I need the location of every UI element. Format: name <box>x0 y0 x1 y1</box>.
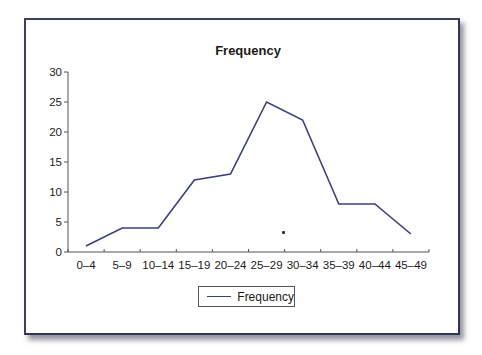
x-tick-label: 0–4 <box>76 259 96 271</box>
x-tick-label: 40–44 <box>359 259 392 271</box>
y-tick-label: 30 <box>49 66 62 78</box>
frequency-line <box>86 102 411 246</box>
scan-artifact-dot <box>282 231 285 234</box>
x-tick-label: 30–34 <box>287 259 320 271</box>
x-tick-label: 25–29 <box>251 259 283 271</box>
y-tick-label: 25 <box>49 96 62 108</box>
legend-label: Frequency <box>237 290 294 304</box>
legend-line-swatch-icon <box>207 296 231 297</box>
y-axis: 051015202530 <box>49 66 68 258</box>
chart-title: Frequency <box>215 43 282 58</box>
y-tick-label: 5 <box>56 216 62 228</box>
y-tick-label: 0 <box>56 246 62 258</box>
y-tick-label: 10 <box>49 186 62 198</box>
chart-legend: Frequency <box>198 286 295 307</box>
x-tick-label: 5–9 <box>113 259 132 271</box>
x-tick-label: 35–39 <box>323 259 355 271</box>
x-tick-label: 20–24 <box>214 259 247 271</box>
y-tick-label: 20 <box>49 126 62 138</box>
x-axis: 0–45–910–1415–1920–2425–2930–3435–3940–4… <box>68 249 429 271</box>
x-tick-label: 10–14 <box>142 259 175 271</box>
x-tick-label: 45–49 <box>395 259 427 271</box>
y-tick-label: 15 <box>49 156 62 168</box>
x-tick-label: 15–19 <box>178 259 210 271</box>
